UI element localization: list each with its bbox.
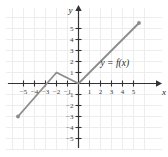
y-tick-label: −5 xyxy=(66,135,74,143)
x-tick-label: −5 xyxy=(20,88,28,96)
y-tick-label: 4 xyxy=(70,36,74,44)
x-tick-label: 2 xyxy=(99,88,103,96)
y-tick-label: −2 xyxy=(66,102,74,110)
y-tick-label: 5 xyxy=(70,25,74,33)
x-tick-label: 1 xyxy=(88,88,92,96)
y-tick-label: 2 xyxy=(70,58,74,66)
y-tick-label: 1 xyxy=(70,69,74,77)
y-axis-label: y xyxy=(68,5,73,15)
y-tick-label: 3 xyxy=(70,47,74,55)
y-tick-label: −4 xyxy=(66,124,74,132)
y-tick-label: −3 xyxy=(66,113,74,121)
curve-endpoint-dot xyxy=(137,21,141,25)
x-tick-label: 5 xyxy=(132,88,136,96)
x-tick-label: −2 xyxy=(53,88,61,96)
x-tick-label: 3 xyxy=(110,88,114,96)
annotation-layer: y = f(x) xyxy=(100,58,130,69)
function-annotation-label: y = f(x) xyxy=(100,58,130,69)
curve-endpoint-dot xyxy=(16,115,20,119)
y-axis-arrowhead xyxy=(75,5,81,11)
x-axis-label: x xyxy=(161,87,166,97)
x-tick-label: 4 xyxy=(121,88,125,96)
graph-figure: −5−4−3−2−112345−5−4−3−2−112345 yx y = f(… xyxy=(0,0,168,157)
y-tick-label: −1 xyxy=(66,91,74,99)
cartesian-plot: −5−4−3−2−112345−5−4−3−2−112345 yx y = f(… xyxy=(0,0,168,157)
